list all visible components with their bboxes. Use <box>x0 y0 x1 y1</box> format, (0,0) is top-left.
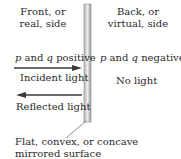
front-side-label: Front, or real, side <box>8 6 78 30</box>
back-side-label: Back, or virtual, side <box>98 6 178 30</box>
incident-light-label: Incident light <box>20 72 88 84</box>
mirror-surface-label: Flat, convex, or concave mirrored surfac… <box>15 136 138 159</box>
no-light-label: No light <box>116 75 157 87</box>
front-sign-convention: p and q positive <box>15 52 96 64</box>
incident-arrow <box>14 65 82 71</box>
reflected-arrow <box>16 92 82 98</box>
reflected-light-label: Reflected light <box>16 101 90 113</box>
back-sign-convention: p and q negative <box>100 52 181 64</box>
